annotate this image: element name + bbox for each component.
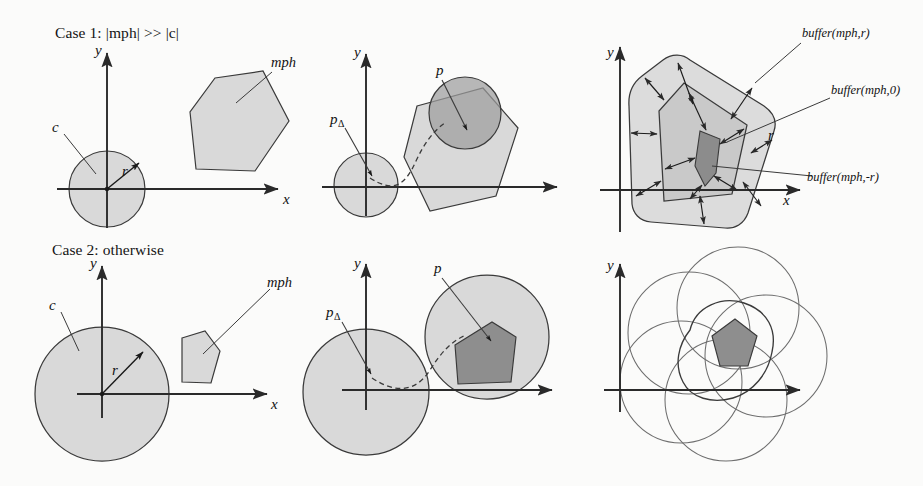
polygon-mph-label: mph [271,55,296,70]
case-2-heading: Case 2: otherwise [52,241,164,259]
point-p-delta-base: p [330,111,338,127]
radius-r-label: r [112,363,118,378]
axis-x-label: x [283,192,290,207]
point-p-delta-base: p [326,304,334,320]
radius-r-label: r [122,164,128,179]
circle-c-label: c [49,298,56,313]
origin-dot [105,187,109,191]
buffer-zero-label: buffer(mph,0) [831,84,900,97]
leader-buffer-positive [755,43,801,83]
case-1-heading: Case 1: |mph| >> |c| [55,24,179,42]
axis-y-label: y [354,45,361,60]
axis-y-label: y [607,45,614,60]
radius-r-label: r [768,128,774,143]
axis-y-label: y [607,258,614,273]
panel-top-left [57,53,289,228]
axis-x-label: x [783,193,790,208]
axis-y-label: y [95,43,102,58]
circle-c-translated [429,77,501,149]
origin-dot [100,392,104,396]
point-p-delta-subscript: Δ [338,118,344,129]
point-p-delta-subscript: Δ [334,311,340,322]
panel-top-right [600,43,830,232]
polygon-mph [190,71,289,171]
axis-y-label: y [354,256,361,271]
polygon-mph [182,331,220,383]
point-p-delta-label: pΔ [330,112,344,129]
axis-y-label: y [90,256,97,271]
point-p-label: p [436,63,444,78]
panel-bottom-middle [303,264,552,455]
axis-x-label: x [271,397,278,412]
buffer-negative-label: buffer(mph,-r) [807,171,879,184]
polygon-mph-label: mph [267,275,292,290]
point-p-delta-label: pΔ [326,305,340,322]
buffer-positive-label: buffer(mph,r) [802,27,870,40]
polygon-mph-core [712,319,757,366]
panel-bottom-left [35,266,270,461]
leader-mph [203,289,270,354]
point-p-label: p [434,261,442,276]
panel-bottom-right [604,247,827,461]
panel-top-middle [322,54,557,217]
figure-root: Case 1: |mph| >> |c| Case 2: otherwise y… [0,0,923,486]
circle-c-label: c [52,120,59,135]
